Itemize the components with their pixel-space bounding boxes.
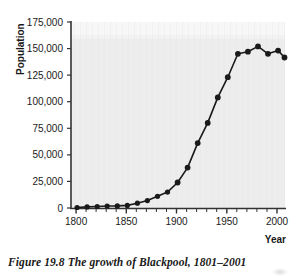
x-tick-label-1950: 1950 — [216, 216, 239, 227]
data-point — [115, 203, 120, 208]
data-point — [245, 49, 251, 55]
x-tick-label-1900: 1900 — [165, 216, 188, 227]
y-tick-label-150000: 150,000 — [27, 43, 64, 54]
figure-container: 175,000 150,000 125,000 100,000 75,000 5… — [0, 0, 306, 280]
data-point — [135, 201, 140, 206]
x-axis-title: Year — [265, 234, 286, 245]
data-point — [215, 95, 221, 101]
data-point — [185, 165, 191, 171]
data-point — [175, 180, 181, 186]
y-axis-title: Population — [15, 23, 26, 75]
data-point — [145, 198, 150, 203]
y-tick-label-100000: 100,000 — [27, 96, 64, 107]
data-point — [195, 140, 201, 146]
data-point — [265, 51, 271, 57]
data-point — [165, 190, 170, 195]
plot-area-highlight-band — [71, 22, 285, 35]
y-tick-label-25000: 25,000 — [32, 176, 63, 187]
x-tick-label-1850: 1850 — [115, 216, 138, 227]
plot-area-highlight-band-2 — [71, 35, 285, 39]
y-tick-label-125000: 125,000 — [27, 70, 64, 81]
y-tick-label-0: 0 — [57, 203, 63, 214]
y-tick-label-75000: 75,000 — [32, 123, 63, 134]
x-tick-label-2000: 2000 — [266, 216, 289, 227]
population-line-chart: 175,000 150,000 125,000 100,000 75,000 5… — [0, 0, 306, 280]
data-point — [105, 203, 110, 208]
page-corner-smudge — [272, 268, 288, 276]
x-tick-label-1800: 1800 — [65, 216, 88, 227]
y-tick-label-175000: 175,000 — [27, 17, 64, 28]
data-point — [235, 51, 241, 57]
data-point — [225, 74, 231, 80]
y-tick-label-50000: 50,000 — [32, 149, 63, 160]
figure-caption: Figure 19.8 The growth of Blackpool, 180… — [8, 256, 298, 268]
data-point — [95, 204, 100, 209]
data-point — [255, 44, 261, 50]
data-point — [155, 194, 160, 199]
data-point — [75, 205, 80, 210]
data-point — [205, 120, 211, 126]
data-point — [85, 204, 90, 209]
data-point — [125, 203, 130, 208]
